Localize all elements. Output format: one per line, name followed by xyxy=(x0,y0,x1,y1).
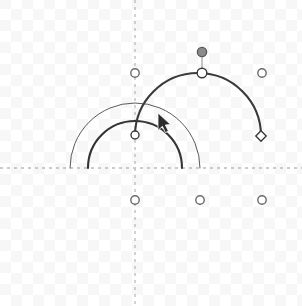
handle-grid-top-left[interactable] xyxy=(131,69,139,77)
handle-arc-end-point[interactable] xyxy=(256,131,266,141)
selection-handles-group[interactable] xyxy=(131,47,266,204)
arrow-pointer-icon xyxy=(158,113,171,133)
axis-guides-group xyxy=(0,0,302,306)
arc-editor-canvas[interactable] xyxy=(0,0,302,306)
handle-grid-bottom-mid[interactable] xyxy=(196,196,204,204)
handle-grid-bottom-left[interactable] xyxy=(131,196,139,204)
mouse-cursor-group xyxy=(158,113,171,133)
handle-arc-apex[interactable] xyxy=(197,68,207,78)
vector-drawing-surface[interactable] xyxy=(0,0,302,306)
arc-selected-large[interactable] xyxy=(135,73,261,136)
handle-arc-radius-drag[interactable] xyxy=(197,47,206,56)
handle-grid-top-right[interactable] xyxy=(258,69,266,77)
handle-grid-bottom-right[interactable] xyxy=(258,196,266,204)
handle-arc-start-point[interactable] xyxy=(131,131,139,139)
